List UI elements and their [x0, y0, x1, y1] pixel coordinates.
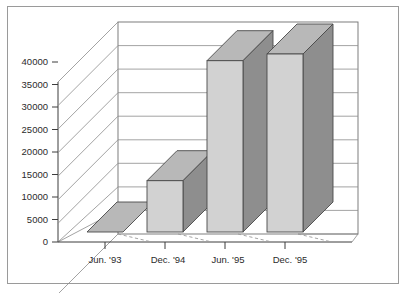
y-tick-label: 10000	[22, 191, 48, 202]
y-tick-label: 40000	[22, 56, 48, 67]
x-tick-label: Dec. '95	[273, 254, 308, 265]
plot-side-wall	[58, 22, 118, 293]
y-tick-label: 20000	[22, 146, 48, 157]
y-tick-label: 0	[43, 236, 48, 247]
y-tick-label: 30000	[22, 101, 48, 112]
y-tick-label: 15000	[22, 169, 48, 180]
x-axis-ticks	[105, 242, 285, 249]
x-tick-label: Jun. '93	[89, 254, 122, 265]
bar-jun-95[interactable]	[207, 31, 273, 232]
y-tick-label: 25000	[22, 124, 48, 135]
y-tick-label: 5000	[27, 214, 48, 225]
bar-front-face	[207, 61, 243, 232]
y-axis-tick-labels: 40000 35000 30000 25000 20000 15000 1000…	[22, 56, 48, 247]
x-tick-label: Jun. '95	[212, 254, 245, 265]
bar-dec-95[interactable]	[267, 24, 333, 232]
x-tick-label: Dec. '94	[151, 254, 186, 265]
bar-side-face	[303, 24, 333, 232]
x-axis-tick-labels: Jun. '93 Dec. '94 Jun. '95 Dec. '95	[89, 254, 308, 265]
chart-figure: 40000 35000 30000 25000 20000 15000 1000…	[0, 0, 408, 293]
y-tick-label: 35000	[22, 79, 48, 90]
plot-floor	[58, 234, 358, 242]
bar-chart-plot: 40000 35000 30000 25000 20000 15000 1000…	[0, 0, 408, 293]
bar-front-face	[267, 54, 303, 232]
bar-front-face	[147, 181, 183, 232]
y-axis-ticks	[52, 62, 58, 242]
